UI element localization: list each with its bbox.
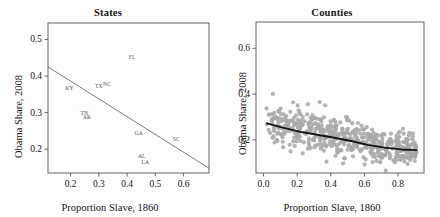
y-tick-label: 0.6 <box>228 43 250 53</box>
y-tick-label: 0.2 <box>20 144 42 154</box>
state-label-fl: FL <box>129 54 136 60</box>
chart-panel-counties: Counties Proportion Slave, 1860 Obama Sh… <box>220 0 440 217</box>
y-tick-label: 0.4 <box>228 89 250 99</box>
x-tick-label: 0.2 <box>291 179 303 189</box>
state-label-sc: SC <box>173 136 180 142</box>
state-label-la: LA <box>142 159 150 165</box>
state-label-ga: GA <box>135 130 143 136</box>
x-tick-label: 0.4 <box>121 179 133 189</box>
y-tick-label: 0.4 <box>20 71 42 81</box>
chart-panel-states: States Proportion Slave, 1860 Obama Shar… <box>0 0 220 217</box>
x-tick-label: 0.2 <box>65 179 77 189</box>
x-tick-label: 0.6 <box>178 179 190 189</box>
state-label-ky: KY <box>65 85 73 91</box>
y-tick-label: 0.2 <box>228 135 250 145</box>
state-label-al: AL <box>138 153 146 159</box>
state-label-tx: TX <box>95 83 103 89</box>
x-tick-label: 0.5 <box>149 179 161 189</box>
state-label-ar: AR <box>83 114 91 120</box>
figure-panel-pair: States Proportion Slave, 1860 Obama Shar… <box>0 0 440 217</box>
x-tick-label: 0.8 <box>392 179 404 189</box>
x-tick-label: 0.6 <box>358 179 370 189</box>
state-label-nc: NC <box>103 81 111 87</box>
y-tick-label: 0.5 <box>20 34 42 44</box>
x-tick-label: 0.4 <box>325 179 337 189</box>
y-tick-label: 0.3 <box>20 108 42 118</box>
x-tick-label: 0.0 <box>258 179 270 189</box>
x-axis-title-counties: Proportion Slave, 1860 <box>232 202 432 213</box>
x-tick-label: 0.3 <box>93 179 105 189</box>
x-axis-title-states: Proportion Slave, 1860 <box>10 202 210 213</box>
